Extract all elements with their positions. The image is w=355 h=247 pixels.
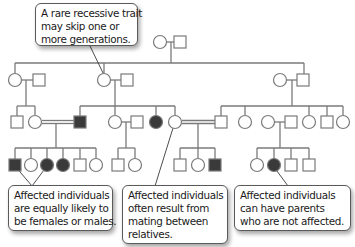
female-affected xyxy=(41,159,54,172)
female-unaffected xyxy=(25,159,38,172)
callout-skip-generations: A rare recessive trait may skip one or m… xyxy=(35,3,138,46)
female-affected xyxy=(57,159,70,172)
callout-line: can have parents xyxy=(240,202,345,215)
female-unaffected xyxy=(98,74,111,87)
female-unaffected xyxy=(154,36,167,49)
female-unaffected xyxy=(169,116,182,129)
male-unaffected xyxy=(121,74,133,86)
male-unaffected xyxy=(11,116,23,128)
male-unaffected xyxy=(74,159,86,171)
callout-line: are equally likely to xyxy=(14,202,107,215)
female-affected xyxy=(150,116,163,129)
callout-equal-sexes: Affected individuals are equally likely … xyxy=(8,185,113,231)
male-unaffected xyxy=(131,116,143,128)
female-unaffected xyxy=(262,116,275,129)
female-unaffected xyxy=(239,116,252,129)
callout-line: Affected individuals xyxy=(14,189,107,202)
male-unaffected xyxy=(215,116,227,128)
female-unaffected xyxy=(109,116,122,129)
callout-line: A rare recessive trait xyxy=(41,7,132,20)
male-affected xyxy=(74,116,86,128)
female-unaffected xyxy=(303,116,316,129)
callout-line: often result from xyxy=(128,202,222,215)
male-affected xyxy=(9,159,21,171)
callout-line: be females or males. xyxy=(14,215,107,228)
callout-line: more generations. xyxy=(41,33,132,46)
female-unaffected xyxy=(90,159,103,172)
callout-line: may skip one or xyxy=(41,20,132,33)
male-unaffected xyxy=(285,116,297,128)
male-affected xyxy=(209,159,221,171)
female-unaffected xyxy=(192,159,205,172)
male-unaffected xyxy=(285,159,297,171)
male-unaffected xyxy=(33,74,45,86)
female-unaffected xyxy=(9,74,22,87)
individuals xyxy=(9,36,350,172)
male-unaffected xyxy=(297,74,309,86)
male-unaffected xyxy=(174,159,186,171)
callout-line: relatives. xyxy=(128,228,222,241)
callout-unaffected-parents: Affected individuals can have parents wh… xyxy=(234,185,351,231)
female-unaffected xyxy=(251,159,264,172)
callout-line: Affected individuals xyxy=(240,189,345,202)
female-unaffected xyxy=(337,116,350,129)
female-unaffected xyxy=(274,74,287,87)
male-unaffected xyxy=(303,159,315,171)
male-unaffected xyxy=(112,159,124,171)
pedigree-lines xyxy=(15,42,343,159)
callout-line: mating between xyxy=(128,215,222,228)
callout-line: Affected individuals xyxy=(128,189,222,202)
callout-consanguinity: Affected individuals often result from m… xyxy=(122,185,228,244)
male-unaffected xyxy=(174,36,186,48)
female-affected xyxy=(268,159,281,172)
callout-line: who are not affected. xyxy=(240,215,345,228)
female-unaffected xyxy=(29,116,42,129)
female-unaffected xyxy=(129,159,142,172)
male-unaffected xyxy=(321,116,333,128)
